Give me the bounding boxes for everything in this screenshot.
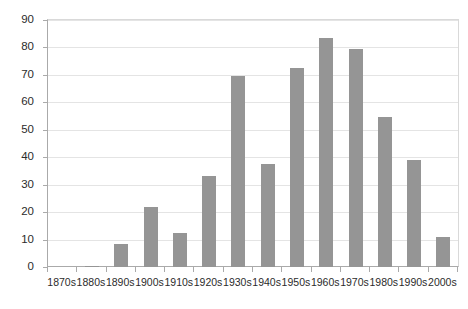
bar-chart: 0102030405060708090 1870s1880s1890s1900s… (0, 0, 468, 309)
y-tick-label: 50 (21, 124, 34, 136)
x-tick-label: 2000s (428, 276, 457, 289)
bar (173, 233, 187, 267)
x-tick-label: 1980s (369, 276, 398, 289)
x-tick-mark (164, 267, 165, 272)
bar (407, 160, 421, 267)
x-tick-label: 1890s (106, 276, 135, 289)
y-tick-label: 70 (21, 69, 34, 81)
bar (114, 244, 128, 267)
x-tick-label: 1930s (223, 276, 252, 289)
y-tick-label: 90 (21, 14, 34, 26)
bar (231, 76, 245, 267)
x-tick-mark (47, 267, 48, 272)
bar (261, 164, 275, 267)
x-tick-label: 1900s (135, 276, 164, 289)
y-tick-label: 80 (21, 42, 34, 54)
x-tick-mark (76, 267, 77, 272)
x-tick-label: 1880s (77, 276, 106, 289)
y-tick-label: 40 (21, 151, 34, 163)
x-tick-label: 1920s (194, 276, 223, 289)
x-tick-label: 1950s (282, 276, 311, 289)
y-tick-label: 0 (28, 261, 34, 273)
x-axis: 1870s1880s1890s1900s1910s1920s1930s1940s… (47, 276, 459, 298)
x-tick-label: 1960s (311, 276, 340, 289)
x-tick-label: 1970s (340, 276, 369, 289)
x-tick-mark (369, 267, 370, 272)
x-tick-mark (135, 267, 136, 272)
y-tick-label: 10 (21, 234, 34, 246)
y-axis: 0102030405060708090 (0, 0, 44, 309)
bars-layer (48, 20, 458, 267)
x-axis-ticks (47, 267, 459, 272)
x-tick-label: 1910s (164, 276, 193, 289)
y-tick-label: 60 (21, 97, 34, 109)
bar (290, 68, 304, 267)
x-tick-mark (398, 267, 399, 272)
x-tick-mark (193, 267, 194, 272)
x-tick-label: 1870s (47, 276, 76, 289)
bar (349, 49, 363, 267)
x-tick-mark (252, 267, 253, 272)
x-tick-mark (340, 267, 341, 272)
bar (202, 176, 216, 267)
x-tick-label: 1990s (399, 276, 428, 289)
x-tick-label: 1940s (252, 276, 281, 289)
x-tick-mark (106, 267, 107, 272)
bar (144, 207, 158, 267)
bar (436, 237, 450, 267)
bar (378, 117, 392, 267)
bar (319, 38, 333, 267)
x-tick-mark (428, 267, 429, 272)
y-tick-label: 30 (21, 179, 34, 191)
x-tick-mark (311, 267, 312, 272)
x-tick-mark (281, 267, 282, 272)
y-tick-label: 20 (21, 206, 34, 218)
x-tick-mark (223, 267, 224, 272)
x-tick-mark (457, 267, 458, 272)
